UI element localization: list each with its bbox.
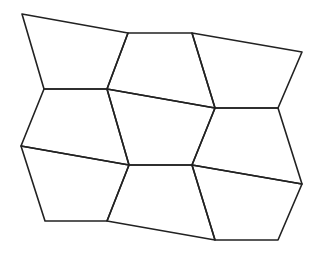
cell-bottom-right [192, 165, 302, 240]
cell-center [107, 89, 215, 165]
cell-middle-left [21, 89, 129, 165]
cell-bottom-middle [107, 165, 215, 240]
pentagonal-tiling-diagram [0, 0, 319, 254]
cell-middle-right [192, 108, 302, 184]
cell-top-left [22, 14, 128, 89]
tiling-svg [0, 0, 319, 254]
cell-top-middle [107, 33, 215, 108]
cell-bottom-left [21, 146, 129, 221]
cell-top-right [192, 33, 302, 108]
